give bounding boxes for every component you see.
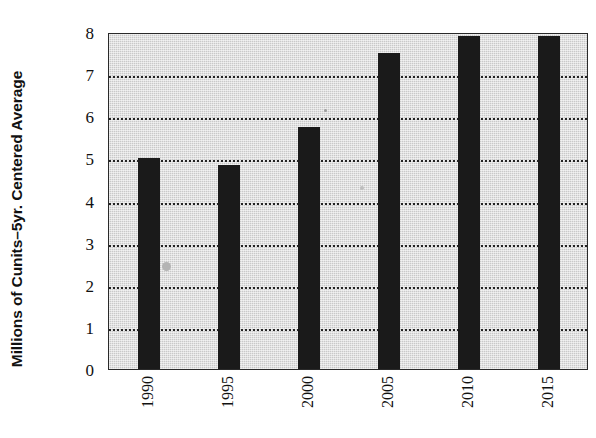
bar bbox=[218, 165, 240, 369]
gridline bbox=[109, 160, 587, 162]
bar-chart: Millions of Cunits–5yr. Centered Average… bbox=[0, 0, 596, 438]
gridline bbox=[109, 76, 587, 78]
scan-speck bbox=[162, 262, 171, 271]
gridline bbox=[109, 245, 587, 247]
x-axis-tick-label: 2015 bbox=[540, 376, 556, 408]
gridline bbox=[109, 287, 587, 289]
x-axis-tick-label: 1990 bbox=[140, 376, 156, 408]
x-axis-tick-label: 2010 bbox=[460, 376, 476, 408]
gridline bbox=[109, 118, 587, 120]
y-axis-tick-label: 1 bbox=[86, 319, 95, 336]
bar bbox=[378, 53, 400, 369]
plot-area bbox=[108, 33, 588, 370]
y-axis-tick-label: 8 bbox=[86, 25, 95, 42]
y-axis-tick-label: 3 bbox=[86, 235, 95, 252]
x-axis-tick-label: 2005 bbox=[380, 376, 396, 408]
bar bbox=[458, 36, 480, 369]
y-axis-tick-label: 2 bbox=[86, 277, 95, 294]
y-axis-tick-labels: 012345678 bbox=[60, 26, 100, 374]
y-axis-title: Millions of Cunits–5yr. Centered Average bbox=[0, 0, 34, 438]
x-axis-tick-labels: 199019952000200520102015 bbox=[108, 372, 588, 438]
gridline bbox=[109, 329, 587, 331]
x-axis-tick-label: 2000 bbox=[300, 376, 316, 408]
y-axis-tick-label: 4 bbox=[86, 193, 95, 210]
plot-background-texture bbox=[109, 34, 587, 369]
bar bbox=[538, 36, 560, 369]
x-axis-tick-label: 1995 bbox=[220, 376, 236, 408]
gridline bbox=[109, 203, 587, 205]
bar bbox=[138, 158, 160, 369]
bar bbox=[298, 127, 320, 369]
y-axis-tick-label: 6 bbox=[86, 109, 95, 126]
scan-speck bbox=[360, 186, 364, 190]
y-axis-tick-label: 7 bbox=[86, 67, 95, 84]
y-axis-tick-label: 0 bbox=[86, 362, 95, 379]
scan-speck bbox=[324, 109, 327, 112]
y-axis-tick-label: 5 bbox=[86, 151, 95, 168]
